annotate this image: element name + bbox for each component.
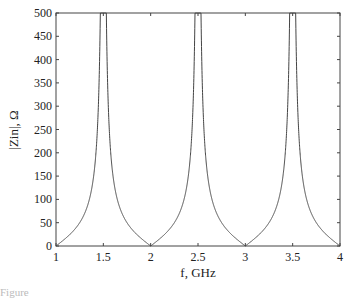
y-axis-label: |Zin|, Ω: [6, 110, 21, 149]
y-tick-label: 400: [34, 53, 52, 67]
x-tick-label: 3.5: [285, 250, 300, 264]
y-tick-label: 250: [34, 123, 52, 137]
x-axis-label: f, GHz: [180, 265, 216, 280]
x-tick-label: 4: [337, 250, 343, 264]
y-tick-label: 350: [34, 76, 52, 90]
impedance-curve: [56, 13, 340, 246]
y-tick-label: 150: [34, 169, 52, 183]
y-tick-label: 450: [34, 29, 52, 43]
plot-frame: [56, 13, 340, 246]
y-tick-label: 200: [34, 146, 52, 160]
x-tick-label: 1.5: [96, 250, 111, 264]
figure-caption: Figure: [0, 286, 29, 298]
y-tick-label: 50: [40, 216, 52, 230]
y-tick-label: 0: [46, 239, 52, 253]
plot-area: [56, 13, 340, 246]
x-tick-label: 2: [148, 250, 154, 264]
y-tick-label: 100: [34, 192, 52, 206]
y-axis-ticks: 050100150200250300350400450500: [34, 6, 340, 253]
x-tick-label: 2.5: [191, 250, 206, 264]
y-tick-label: 300: [34, 99, 52, 113]
x-tick-label: 3: [242, 250, 248, 264]
x-tick-label: 1: [53, 250, 59, 264]
y-tick-label: 500: [34, 6, 52, 20]
